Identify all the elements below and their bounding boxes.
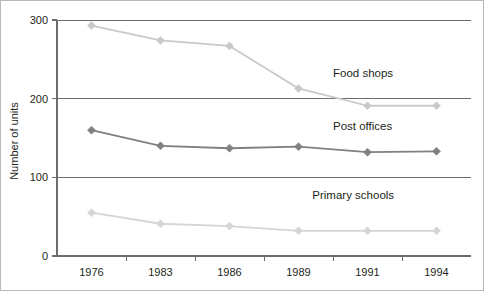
grid-lines: [57, 20, 471, 177]
data-point-marker: [364, 227, 372, 235]
series-line: [92, 213, 437, 231]
data-point-marker: [433, 102, 441, 110]
data-point-marker: [295, 227, 303, 235]
x-axis-tick-label: 1986: [217, 266, 241, 278]
data-point-marker: [157, 220, 165, 228]
series-label-primary-schools: Primary schools: [312, 189, 394, 201]
x-axis-tick-label: 1976: [79, 266, 103, 278]
data-point-marker: [157, 36, 165, 44]
y-axis-tick-label: 100: [30, 171, 48, 183]
data-series: [88, 22, 441, 110]
data-point-marker: [226, 144, 234, 152]
data-point-marker: [364, 148, 372, 156]
axis-lines: [52, 20, 471, 256]
x-axis-tick-label: 1994: [424, 266, 448, 278]
data-point-marker: [157, 142, 165, 150]
data-point-marker: [226, 222, 234, 230]
data-point-marker: [226, 42, 234, 50]
series-line: [92, 26, 437, 106]
data-point-marker: [364, 102, 372, 110]
data-series: [88, 209, 441, 235]
data-point-marker: [433, 147, 441, 155]
series-labels-group: Food shopsPost officesPrimary schools: [312, 67, 394, 202]
series-label-post-offices: Post offices: [333, 120, 392, 132]
x-axis-tick-label: 1991: [355, 266, 379, 278]
y-axis-tick-labels: 0100200300: [30, 14, 48, 262]
y-axis-tick-label: 300: [30, 14, 48, 26]
y-axis-title: Number of units: [8, 102, 20, 180]
line-chart: 0100200300 197619831986198919911994 Food…: [1, 1, 483, 290]
data-point-marker: [88, 126, 96, 134]
data-point-marker: [88, 209, 96, 217]
x-axis-tick-labels: 197619831986198919911994: [79, 266, 448, 278]
data-point-marker: [295, 84, 303, 92]
y-axis-tick-label: 200: [30, 93, 48, 105]
y-axis-tick-label: 0: [42, 250, 48, 262]
data-point-marker: [295, 143, 303, 151]
x-axis-tick-label: 1983: [148, 266, 172, 278]
data-point-marker: [88, 22, 96, 30]
series-line: [92, 130, 437, 152]
x-axis-ticks: [126, 256, 402, 261]
x-axis-tick-label: 1989: [286, 266, 310, 278]
data-point-marker: [433, 227, 441, 235]
chart-container: 0100200300 197619831986198919911994 Food…: [0, 0, 484, 291]
series-label-food-shops: Food shops: [333, 67, 393, 79]
